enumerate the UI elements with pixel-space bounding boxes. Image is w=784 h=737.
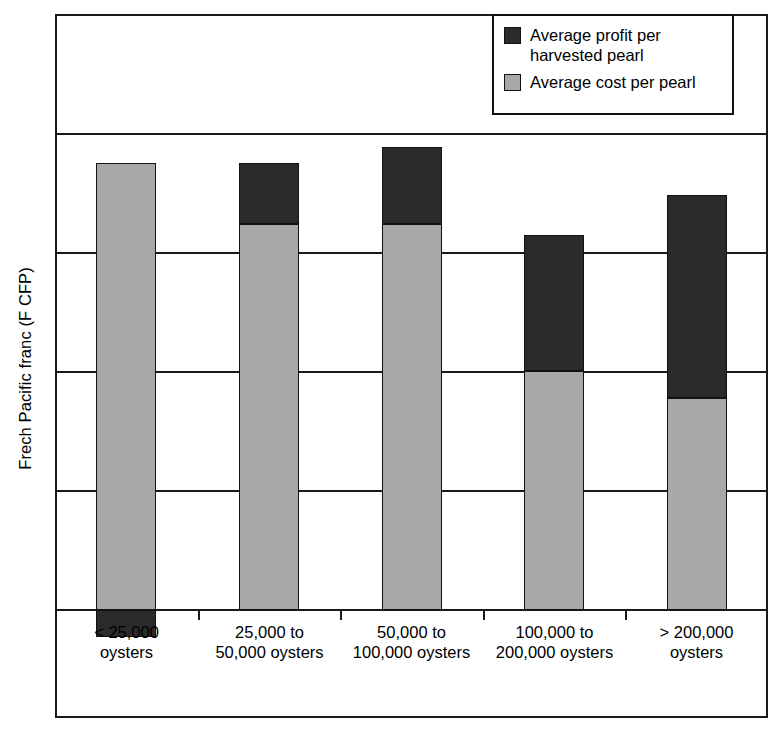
dark-swatch-icon xyxy=(504,27,521,44)
gray-swatch-icon xyxy=(504,74,521,91)
bar-segment-cost[interactable] xyxy=(524,371,584,610)
y-axis-title: Frech Pacific franc (F CFP) xyxy=(0,0,50,737)
bar-segment-profit[interactable] xyxy=(667,195,727,398)
x-axis-tick xyxy=(340,611,342,620)
bar-segment-profit[interactable] xyxy=(382,147,442,224)
x-axis-category-label: > 200,000 oysters xyxy=(625,622,768,662)
legend-item-profit[interactable]: Average profit per harvested pearl xyxy=(504,25,724,66)
bar-segment-cost[interactable] xyxy=(382,224,442,610)
x-axis-tick xyxy=(483,611,485,620)
legend[interactable]: Average profit per harvested pearl Avera… xyxy=(492,14,734,115)
x-axis-category-label: 100,000 to 200,000 oysters xyxy=(483,622,626,662)
bar-segment-profit[interactable] xyxy=(239,163,299,225)
x-axis-tick xyxy=(198,611,200,620)
x-axis-category-label: 50,000 to 100,000 oysters xyxy=(340,622,483,662)
legend-label-profit: Average profit per harvested pearl xyxy=(530,25,661,66)
bar-segment-cost[interactable] xyxy=(96,163,156,610)
legend-item-cost[interactable]: Average cost per pearl xyxy=(504,72,724,92)
bar-segment-cost[interactable] xyxy=(239,224,299,610)
legend-label-cost: Average cost per pearl xyxy=(530,72,696,92)
bar-segment-profit[interactable] xyxy=(524,235,584,371)
x-axis-category-label: < 25,000 oysters xyxy=(55,622,198,662)
bar-segment-cost[interactable] xyxy=(667,398,727,610)
x-axis-category-label: 25,000 to 50,000 oysters xyxy=(198,622,341,662)
chart-figure: Frech Pacific franc (F CFP) < 25,000 oys… xyxy=(0,0,784,737)
x-axis-tick xyxy=(625,611,627,620)
